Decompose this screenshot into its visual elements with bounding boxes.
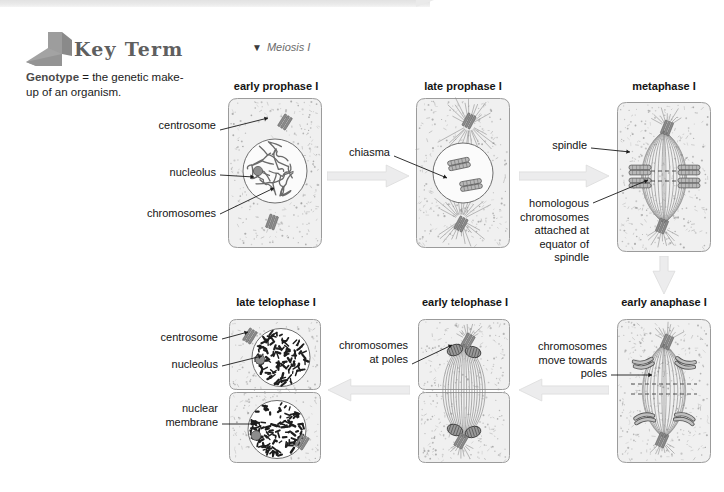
arrow-prophase-late-to-metaphase	[519, 164, 609, 192]
cell-early-telophase-1	[417, 318, 511, 464]
top-banner-bar	[0, 0, 430, 7]
phase-title-late-prophase-1: late prophase I	[415, 80, 511, 92]
cell-early-prophase-1	[227, 97, 323, 249]
phase-title-early-prophase-1: early prophase I	[228, 80, 324, 92]
top-banner	[0, 0, 724, 8]
annotation-chromosomes-at-poles: chromosomes at poles	[320, 339, 408, 366]
annotation-centrosome-top: centrosome	[96, 119, 216, 133]
arrow-anaphase-to-early-telophase	[519, 378, 609, 406]
cell-late-prophase-1	[415, 97, 511, 249]
triangle-down-icon: ▼	[252, 42, 262, 53]
key-term-word: Genotype	[26, 71, 79, 83]
annotation-spindle: spindle	[497, 139, 587, 153]
top-banner-wedge	[416, 0, 434, 7]
phase-title-early-telophase-1: early telophase I	[413, 296, 517, 308]
key-term-body: Genotype = the genetic make-up of an org…	[26, 70, 186, 99]
arrow-early-to-late-telophase	[328, 378, 410, 406]
cell-late-telophase-1	[228, 318, 322, 464]
arrow-metaphase-to-anaphase	[652, 256, 676, 298]
annotation-nucleolus-bottom: nucleolus	[130, 358, 218, 372]
arrow-prophase-early-to-late	[327, 164, 409, 192]
meiosis-diagram-page: Key Term Genotype = the genetic make-up …	[0, 0, 724, 492]
annotation-homologous-chromosomes: homologous chromosomes attached at equat…	[515, 197, 589, 265]
annotation-centrosome-bottom: centrosome	[130, 331, 218, 345]
cell-metaphase-1	[616, 101, 712, 253]
annotation-chiasma: chiasma	[300, 146, 390, 160]
cell-early-anaphase-1	[616, 318, 712, 464]
key-term-header: Key Term	[26, 30, 191, 70]
bent-corner-flag-icon	[26, 32, 72, 66]
figure-caption-text: Meiosis I	[267, 41, 310, 53]
annotation-chromosomes-move-towards-poles: chromosomes move towards poles	[519, 340, 607, 381]
annotation-nucleolus-top: nucleolus	[96, 166, 216, 180]
annotation-chromosomes-top: chromosomes	[86, 207, 216, 221]
key-term-title: Key Term	[74, 38, 184, 60]
annotation-nuclear-membrane: nuclear membrane	[130, 402, 218, 429]
key-term-block: Key Term Genotype = the genetic make-up …	[26, 30, 191, 70]
phase-title-late-telophase-1: late telophase I	[226, 296, 326, 308]
phase-title-metaphase-1: metaphase I	[616, 80, 712, 92]
figure-caption: ▼Meiosis I	[252, 41, 310, 53]
